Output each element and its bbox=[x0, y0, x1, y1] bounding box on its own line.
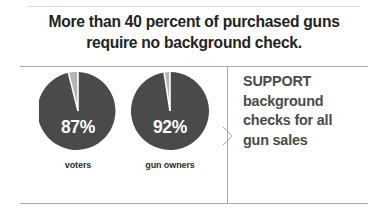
pie-voters-graphic: 87% bbox=[39, 72, 117, 150]
headline-line-1: More than 40 percent of purchased guns bbox=[10, 11, 378, 32]
pie-chart-group: 87% voters 92% gun owners bbox=[20, 72, 220, 200]
pie-chart-gun-owners: 92% gun owners bbox=[124, 72, 216, 200]
pie-voters-value: 87% bbox=[39, 118, 117, 136]
divider-rule-top bbox=[20, 66, 368, 67]
pie-gun-owners-value: 92% bbox=[131, 118, 209, 136]
headline: More than 40 percent of purchased guns r… bbox=[10, 11, 378, 53]
callout-text: SUPPORT background checks for all gun sa… bbox=[243, 72, 371, 150]
pie-gun-owners-graphic: 92% bbox=[131, 72, 209, 150]
pie-gun-owners-label: gun owners bbox=[124, 160, 216, 170]
pie-chart-voters: 87% voters bbox=[32, 72, 124, 200]
divider-rule-bottom bbox=[20, 203, 368, 204]
callout-line-4: gun sales bbox=[243, 131, 371, 151]
callout-line-3: checks for all bbox=[243, 111, 371, 131]
infographic-root: More than 40 percent of purchased guns r… bbox=[0, 0, 388, 218]
callout-line-1: SUPPORT bbox=[243, 72, 371, 92]
top-hairline bbox=[28, 6, 360, 7]
callout-line-2: background bbox=[243, 92, 371, 112]
pie-voters-label: voters bbox=[32, 160, 124, 170]
chevron-right-icon bbox=[222, 126, 234, 146]
headline-line-2: require no background check. bbox=[10, 32, 378, 53]
